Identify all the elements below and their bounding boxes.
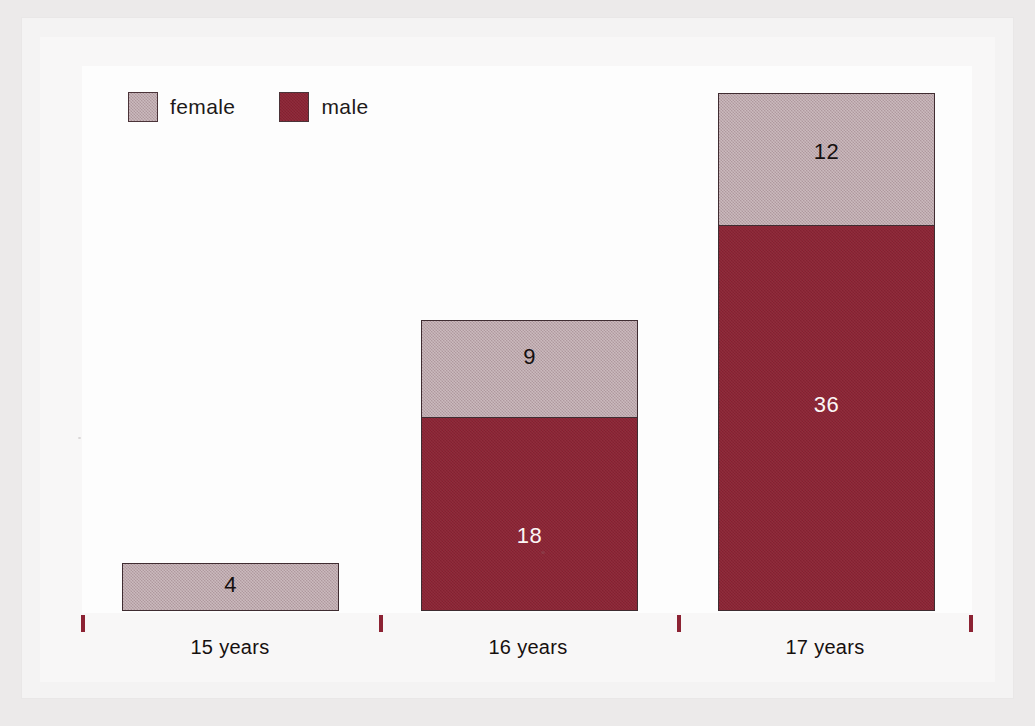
- legend-label-male: male: [321, 95, 368, 119]
- chart-page: female male 4 9 18 12: [0, 0, 1035, 726]
- x-axis-tick-1: [379, 615, 383, 632]
- legend-label-female: female: [170, 95, 235, 119]
- scan-speck: [541, 551, 545, 554]
- x-axis-label-16-years: 16 years: [488, 636, 567, 659]
- legend-swatch-male-icon: [279, 92, 309, 122]
- x-axis-tick-2: [677, 615, 681, 632]
- chart-legend: female male: [128, 92, 369, 122]
- x-axis-label-17-years: 17 years: [785, 636, 864, 659]
- x-axis-tick-3: [969, 615, 973, 632]
- legend-item-male: male: [279, 92, 368, 122]
- legend-item-female: female: [128, 92, 235, 122]
- x-axis-tick-0: [81, 615, 85, 632]
- legend-swatch-female-icon: [128, 92, 158, 122]
- scan-speck: [78, 437, 81, 439]
- x-axis-label-15-years: 15 years: [190, 636, 269, 659]
